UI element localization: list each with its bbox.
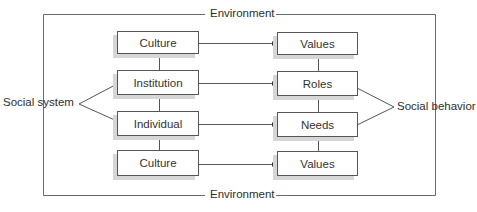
box-institution: Institution [117,70,199,95]
social-behavior-bracket [357,88,394,125]
box-roles: Roles [277,71,358,96]
environment-label-bottom: Environment [210,188,275,201]
social-system-bracket [79,84,117,121]
environment-frame [44,15,436,196]
box-culture-top: Culture [117,31,199,54]
social-system-label: Social system [3,96,74,109]
environment-label-top: Environment [210,7,275,20]
box-needs: Needs [277,112,358,137]
box-values-top: Values [277,32,358,55]
box-values-bottom: Values [277,151,358,176]
social-behavior-label: Social behavior [397,100,476,113]
box-culture-bottom: Culture [117,150,199,176]
horizontal-arrows [198,44,277,165]
social-systems-diagram: Environment Environment Social system So… [0,0,477,212]
box-individual: Individual [117,111,199,136]
